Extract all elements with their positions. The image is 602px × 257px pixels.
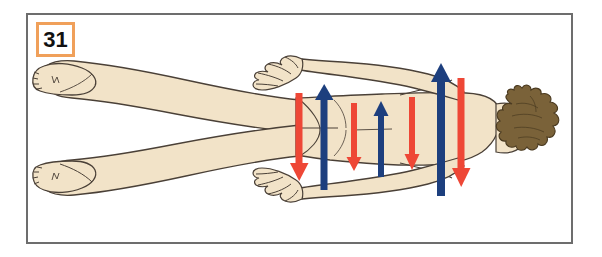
- hand-upper: [253, 56, 303, 90]
- figure-number-text: 31: [43, 29, 67, 51]
- figure-number-badge: 31: [36, 22, 75, 57]
- figure-root: 31: [0, 0, 602, 257]
- anatomical-illustration: [0, 0, 602, 257]
- hair: [496, 85, 558, 150]
